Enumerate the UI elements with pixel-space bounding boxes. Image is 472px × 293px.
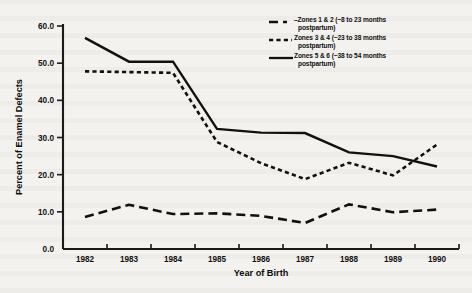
x-tick-label: 1990 — [428, 255, 447, 264]
x-tick-label: 1982 — [76, 255, 95, 264]
legend-swatch-zones-5-6 — [268, 53, 294, 64]
chart-figure: 0.010.020.030.040.050.060.0 198219831984… — [0, 0, 472, 293]
y-tick-label: 0.0 — [43, 245, 55, 254]
legend-item-zones-5-6: Zones 5 & 6 (~38 to 54 months postpartum… — [268, 52, 468, 69]
x-tick-label: 1986 — [252, 255, 271, 264]
legend-swatch-zones-1-2 — [268, 17, 294, 28]
legend-label-zones-5-6-line2: postpartum) — [294, 60, 386, 68]
series-line-zones-1-2 — [85, 204, 437, 223]
legend-label-zones-5-6: Zones 5 & 6 (~38 to 54 months postpartum… — [294, 52, 386, 69]
x-axis-tick-labels: 198219831984198519861987198819891990 — [76, 255, 447, 264]
legend-label-zones-5-6-line1: Zones 5 & 6 (~38 to 54 months — [294, 52, 386, 59]
legend-label-zones-3-4-line2: postpartum) — [294, 42, 386, 50]
x-axis-title: Year of Birth — [234, 268, 289, 278]
x-tick-label: 1983 — [120, 255, 139, 264]
x-tick-label: 1985 — [208, 255, 227, 264]
chart-legend: –Zones 1 & 2 (~8 to 23 months postpartum… — [268, 16, 468, 69]
legend-item-zones-1-2: –Zones 1 & 2 (~8 to 23 months postpartum… — [268, 16, 468, 33]
y-tick-label: 40.0 — [38, 96, 54, 105]
legend-item-zones-3-4: Zones 3 & 4 (~23 to 38 months postpartum… — [268, 34, 468, 51]
series-line-zones-3-4 — [85, 71, 437, 179]
x-tick-label: 1984 — [164, 255, 183, 264]
x-tick-label: 1987 — [296, 255, 315, 264]
y-tick-label: 30.0 — [38, 134, 54, 143]
y-axis-tick-labels: 0.010.020.030.040.050.060.0 — [38, 22, 54, 254]
legend-swatch-zones-3-4 — [268, 35, 294, 46]
x-tick-label: 1989 — [384, 255, 403, 264]
legend-label-zones-3-4: Zones 3 & 4 (~23 to 38 months postpartum… — [294, 34, 386, 51]
legend-label-zones-1-2-line1: –Zones 1 & 2 (~8 to 23 months — [294, 16, 386, 23]
y-tick-label: 10.0 — [38, 208, 54, 217]
y-axis-title: Percent of Enamel Defects — [14, 79, 24, 195]
y-tick-label: 60.0 — [38, 22, 54, 31]
y-tick-label: 50.0 — [38, 59, 54, 68]
legend-label-zones-1-2-line2: postpartum) — [294, 24, 386, 32]
y-tick-label: 20.0 — [38, 171, 54, 180]
legend-label-zones-1-2: –Zones 1 & 2 (~8 to 23 months postpartum… — [294, 16, 386, 33]
x-tick-label: 1988 — [340, 255, 359, 264]
legend-label-zones-3-4-line1: Zones 3 & 4 (~23 to 38 months — [294, 34, 386, 41]
